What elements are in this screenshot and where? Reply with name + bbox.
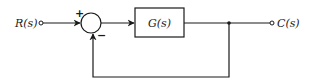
input-label: R(s): [14, 17, 38, 30]
block-diagram: R(s) + − G(s) C(s): [0, 0, 310, 82]
output-terminal: [270, 21, 274, 25]
forward-block-label: G(s): [148, 17, 171, 30]
minus-sign: −: [97, 29, 106, 42]
input-terminal: [39, 21, 43, 25]
plus-sign: +: [75, 7, 84, 20]
output-label: C(s): [277, 17, 300, 30]
